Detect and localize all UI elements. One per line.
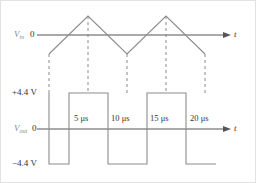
bottom-axis-arrowhead bbox=[223, 126, 231, 132]
bottom-t-label: t bbox=[234, 124, 237, 133]
vout-upper-level-label: +4.4 V bbox=[12, 88, 37, 97]
top-t-label: t bbox=[234, 30, 237, 39]
vin-symbol: V bbox=[14, 29, 20, 39]
vout-symbol: V bbox=[14, 123, 20, 133]
vin-zero-label: 0 bbox=[30, 30, 35, 39]
top-axis-arrowhead bbox=[223, 32, 231, 38]
time-tick-label-15us: 15 μs bbox=[150, 114, 169, 123]
vout-zero-label: 0 bbox=[32, 124, 37, 133]
vout-axis-label: Vout bbox=[14, 124, 27, 133]
vout-lower-level-label: −4.4 V bbox=[12, 159, 37, 168]
vout-subscript: out bbox=[20, 128, 28, 134]
waveform-canvas bbox=[1, 1, 256, 183]
vin-axis-label: Vin bbox=[14, 30, 24, 39]
time-tick-label-20us: 20 μs bbox=[190, 114, 209, 123]
time-tick-label-10us: 10 μs bbox=[111, 114, 130, 123]
waveform-figure: Vin 0 t +4.4 V Vout 0 −4.4 V t 5 μs 10 μ… bbox=[0, 0, 256, 183]
vin-subscript: in bbox=[20, 34, 25, 40]
time-tick-label-5us: 5 μs bbox=[74, 114, 88, 123]
